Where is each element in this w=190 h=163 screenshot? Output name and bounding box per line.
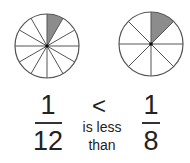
numerator: 1 bbox=[33, 92, 63, 119]
fraction-one-eighth: 1 8 bbox=[140, 92, 162, 155]
caption-line-2: than bbox=[72, 136, 132, 154]
twelfths-circle bbox=[15, 14, 79, 78]
denominator: 12 bbox=[33, 128, 63, 155]
comparison-caption: is less than bbox=[72, 118, 132, 154]
denominator: 8 bbox=[140, 128, 162, 155]
less-than-symbol: < bbox=[92, 94, 106, 118]
fraction-bar bbox=[35, 122, 62, 124]
caption-line-1: is less bbox=[72, 118, 132, 136]
numerator: 1 bbox=[140, 92, 162, 119]
fraction-circles bbox=[0, 0, 190, 90]
fraction-bar bbox=[142, 122, 160, 124]
shaded-slice bbox=[151, 12, 174, 44]
eighths-circle bbox=[119, 12, 183, 76]
fraction-one-twelfth: 1 12 bbox=[33, 92, 63, 155]
